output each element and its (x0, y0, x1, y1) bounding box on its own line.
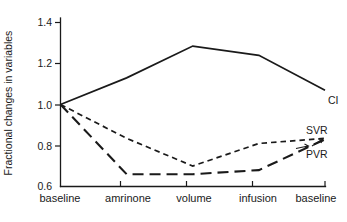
x-tick-label-baseline-start: baseline (40, 192, 81, 204)
series-label-ci: CI (328, 94, 339, 106)
chart-figure: Fractional changes in variables 1.4 1.2 … (0, 0, 347, 222)
series-label-svr: SVR (306, 124, 328, 136)
series-line-pvr (61, 105, 326, 175)
x-tick-label-baseline-end: baseline (296, 192, 337, 204)
line-chart: Fractional changes in variables 1.4 1.2 … (0, 0, 347, 222)
series-line-ci (61, 46, 326, 104)
y-tick-label-0.6: 0.6 (37, 180, 52, 192)
y-tick-label-1.4: 1.4 (37, 16, 52, 28)
y-tick-label-0.8: 0.8 (37, 140, 52, 152)
y-tick-label-1.0: 1.0 (37, 99, 52, 111)
x-tick-label-amrinone: amrinone (105, 192, 151, 204)
y-tick-label-1.2: 1.2 (37, 57, 52, 69)
series-label-pvr: PVR (306, 148, 328, 160)
x-tick-label-infusion: infusion (239, 192, 277, 204)
x-tick-label-volume: volume (176, 192, 211, 204)
y-axis-title: Fractional changes in variables (2, 31, 14, 176)
